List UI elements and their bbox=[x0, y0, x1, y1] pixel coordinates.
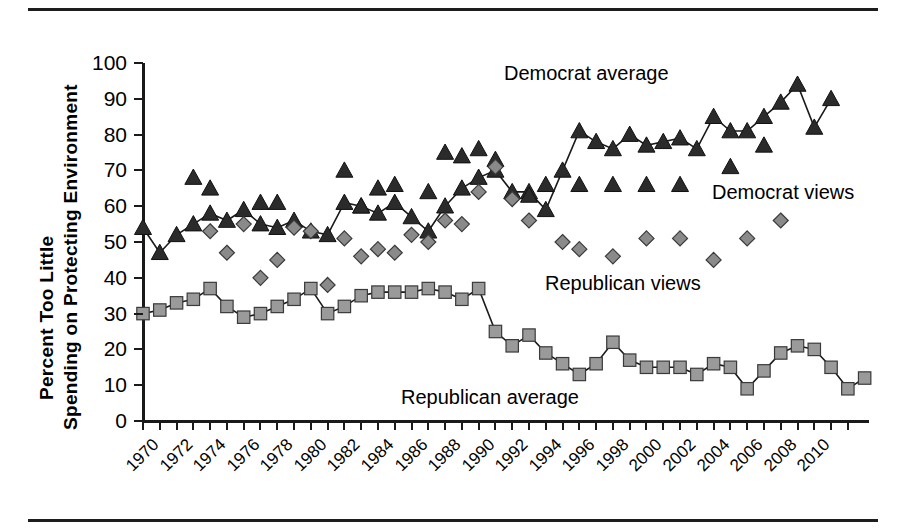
data-point-marker bbox=[707, 358, 719, 370]
data-point-marker bbox=[185, 169, 202, 184]
data-point-marker bbox=[523, 329, 535, 341]
data-point-marker bbox=[221, 300, 233, 312]
data-point-marker bbox=[270, 252, 285, 267]
data-point-marker bbox=[154, 304, 166, 316]
y-tick bbox=[134, 62, 143, 64]
data-point-marker bbox=[472, 282, 484, 294]
data-point-marker bbox=[338, 300, 350, 312]
y-tick-label: 80 bbox=[69, 124, 127, 145]
x-tick bbox=[461, 421, 463, 430]
data-point-marker bbox=[453, 180, 470, 195]
data-point-marker bbox=[470, 140, 487, 155]
data-point-marker bbox=[705, 108, 722, 123]
x-tick bbox=[192, 421, 194, 430]
data-point-marker bbox=[456, 293, 468, 305]
data-point-marker bbox=[740, 231, 755, 246]
x-tick bbox=[763, 421, 765, 430]
data-point-marker bbox=[336, 162, 353, 177]
data-point-marker bbox=[170, 297, 182, 309]
data-point-marker bbox=[639, 231, 654, 246]
data-point-marker bbox=[808, 343, 820, 355]
x-tick bbox=[394, 421, 396, 430]
x-tick bbox=[327, 421, 329, 430]
y-tick-label: 100 bbox=[69, 52, 127, 73]
x-tick bbox=[343, 421, 345, 430]
data-point-marker bbox=[203, 224, 218, 239]
data-point-marker bbox=[219, 245, 234, 260]
data-point-marker bbox=[253, 270, 268, 285]
chart-figure: Percent Too Little Spending on Protectin… bbox=[0, 0, 906, 532]
data-point-marker bbox=[638, 176, 655, 191]
y-tick-label: 0 bbox=[69, 410, 127, 431]
x-tick bbox=[360, 421, 362, 430]
x-tick bbox=[612, 421, 614, 430]
data-point-marker bbox=[571, 176, 588, 191]
data-point-marker bbox=[321, 307, 333, 319]
data-point-marker bbox=[185, 216, 202, 231]
data-point-marker bbox=[755, 137, 772, 152]
data-point-marker bbox=[386, 194, 403, 209]
data-point-marker bbox=[755, 108, 772, 123]
data-point-marker bbox=[387, 245, 402, 260]
x-tick bbox=[293, 421, 295, 430]
annotation-republican-average: Republican average bbox=[401, 386, 579, 409]
data-point-marker bbox=[806, 119, 823, 134]
data-point-marker bbox=[640, 361, 652, 373]
data-point-marker bbox=[521, 213, 536, 228]
data-point-marker bbox=[403, 208, 420, 223]
data-point-marker bbox=[369, 205, 386, 220]
data-point-marker bbox=[252, 194, 269, 209]
x-tick bbox=[746, 421, 748, 430]
x-tick bbox=[511, 421, 513, 430]
annotation-democrat-views: Democrat views bbox=[712, 181, 854, 204]
data-point-marker bbox=[355, 290, 367, 302]
y-tick bbox=[134, 313, 143, 315]
data-point-marker bbox=[825, 361, 837, 373]
data-point-marker bbox=[489, 325, 501, 337]
data-point-marker bbox=[453, 148, 470, 163]
x-tick bbox=[444, 421, 446, 430]
y-tick-label: 60 bbox=[69, 195, 127, 216]
data-point-marker bbox=[405, 286, 417, 298]
x-tick bbox=[494, 421, 496, 430]
data-point-marker bbox=[439, 286, 451, 298]
data-point-marker bbox=[254, 307, 266, 319]
data-point-marker bbox=[540, 347, 552, 359]
data-point-marker bbox=[404, 227, 419, 242]
data-point-marker bbox=[789, 76, 806, 91]
data-point-marker bbox=[420, 183, 437, 198]
series-line bbox=[143, 289, 865, 389]
plot-area: 0102030405060708090100197019721974197619… bbox=[143, 63, 868, 421]
x-tick bbox=[528, 421, 530, 430]
x-tick bbox=[427, 421, 429, 430]
data-point-marker bbox=[621, 126, 638, 141]
data-point-marker bbox=[470, 169, 487, 184]
data-point-marker bbox=[573, 368, 585, 380]
y-tick bbox=[134, 205, 143, 207]
x-tick bbox=[595, 421, 597, 430]
data-point-marker bbox=[354, 249, 369, 264]
data-point-marker bbox=[674, 361, 686, 373]
data-point-marker bbox=[389, 286, 401, 298]
x-tick bbox=[813, 421, 815, 430]
y-tick bbox=[134, 98, 143, 100]
data-point-marker bbox=[672, 176, 689, 191]
y-tick bbox=[134, 348, 143, 350]
data-point-marker bbox=[506, 340, 518, 352]
y-tick-label: 90 bbox=[69, 88, 127, 109]
data-point-marker bbox=[372, 286, 384, 298]
x-tick bbox=[243, 421, 245, 430]
data-point-marker bbox=[739, 123, 756, 138]
x-tick bbox=[797, 421, 799, 430]
y-tick-label: 50 bbox=[69, 231, 127, 252]
data-point-marker bbox=[556, 358, 568, 370]
data-point-marker bbox=[320, 277, 335, 292]
data-point-marker bbox=[537, 176, 554, 191]
x-tick bbox=[226, 421, 228, 430]
data-point-marker bbox=[673, 231, 688, 246]
x-tick bbox=[310, 421, 312, 430]
data-point-marker bbox=[237, 311, 249, 323]
data-point-marker bbox=[202, 205, 219, 220]
data-point-marker bbox=[218, 212, 235, 227]
data-point-marker bbox=[271, 300, 283, 312]
